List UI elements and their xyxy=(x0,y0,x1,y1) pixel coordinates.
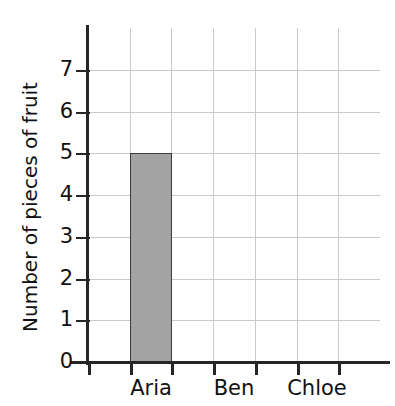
y-tick-label: 0 xyxy=(33,351,73,372)
x-axis-line xyxy=(70,361,390,364)
x-tick-mark xyxy=(213,362,216,375)
x-tick-mark xyxy=(255,362,258,375)
y-tick-label: 3 xyxy=(33,226,73,247)
y-tick-mark xyxy=(76,195,90,197)
y-tick-label: 7 xyxy=(33,59,73,80)
gridline-horizontal xyxy=(88,112,380,113)
y-tick-label: 1 xyxy=(33,309,73,330)
bar-chart: Number of pieces of fruit 01234567 AriaB… xyxy=(0,0,395,406)
x-tick-mark xyxy=(171,362,174,375)
y-tick-mark xyxy=(76,237,90,239)
x-tick-mark xyxy=(130,362,133,375)
x-tick-mark xyxy=(297,362,300,375)
y-tick-mark xyxy=(76,112,90,114)
y-tick-label: 2 xyxy=(33,268,73,289)
x-tick-mark xyxy=(338,362,341,375)
x-axis-label-chloe: Chloe xyxy=(257,377,377,399)
y-tick-mark xyxy=(76,320,90,322)
y-tick-mark xyxy=(76,70,90,72)
x-tick-mark xyxy=(88,362,91,375)
gridline-horizontal xyxy=(88,70,380,71)
plot-area xyxy=(88,28,380,362)
y-axis-title: Number of pieces of fruit xyxy=(18,27,42,387)
bar-aria xyxy=(130,153,172,362)
y-tick-label: 5 xyxy=(33,142,73,163)
y-tick-label: 6 xyxy=(33,101,73,122)
y-tick-mark xyxy=(76,279,90,281)
y-tick-mark xyxy=(76,153,90,155)
y-tick-label: 4 xyxy=(33,184,73,205)
